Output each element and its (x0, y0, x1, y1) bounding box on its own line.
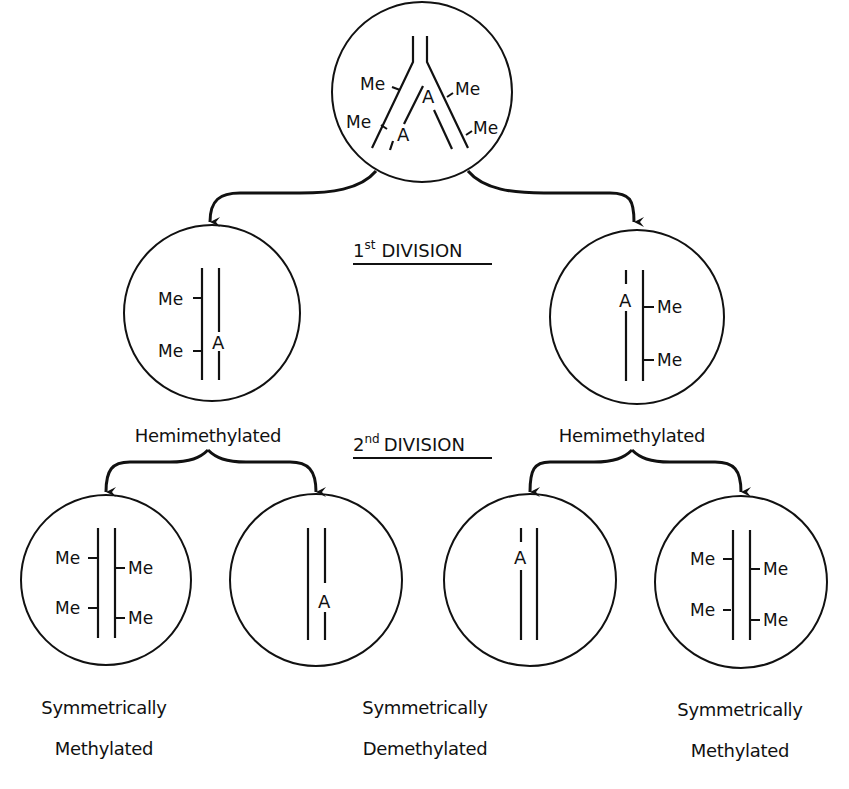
methyl-label: Me (158, 341, 183, 361)
gen2-cell-2: A (230, 494, 402, 666)
methyl-label: Me (763, 559, 788, 579)
gen1-left-cell: Me Me A (124, 225, 300, 401)
methyl-label: Me (473, 118, 498, 138)
methyl-label: Me (128, 558, 153, 578)
gen2-cell-3: A (444, 494, 616, 666)
center-label-line2: Demethylated (363, 738, 488, 759)
first-division-label: 1stDIVISION (353, 238, 492, 264)
gen2-cell-1: Me Me Me Me (21, 495, 191, 665)
first-division-arrows (210, 171, 634, 222)
gen1-right-state-label: Hemimethylated (559, 425, 705, 446)
svg-text:2ndDIVISION: 2ndDIVISION (353, 432, 465, 455)
methyl-label: Me (360, 74, 385, 94)
adenine-label: A (397, 124, 410, 145)
adenine-label: A (422, 86, 435, 107)
methyl-label: Me (455, 79, 480, 99)
methyl-label: Me (657, 297, 682, 317)
methyl-label: Me (657, 350, 682, 370)
adenine-label: A (318, 591, 331, 612)
methyl-label: Me (690, 549, 715, 569)
methyl-label: Me (346, 112, 371, 132)
adenine-label: A (619, 290, 632, 311)
center-label-line1: Symmetrically (362, 697, 488, 718)
gen1-left-state-label: Hemimethylated (135, 425, 281, 446)
methyl-label: Me (55, 548, 80, 568)
methyl-label: Me (128, 608, 153, 628)
adenine-label: A (212, 332, 225, 353)
methyl-label: Me (158, 289, 183, 309)
gen1-right-cell: A Me Me (550, 230, 724, 404)
gen2-4-label-line1: Symmetrically (677, 699, 803, 720)
methylation-inheritance-diagram: Me Me Me Me A A 1stDIVISION Me Me A Hemi… (0, 0, 849, 789)
gen2-4-label-line2: Methylated (691, 740, 789, 761)
bottom-labels: Symmetrically Methylated Symmetrically D… (41, 697, 803, 761)
svg-text:1stDIVISION: 1stDIVISION (353, 238, 463, 261)
parent-cell: Me Me Me Me A A (332, 2, 512, 182)
second-division-arrows (106, 450, 741, 492)
adenine-label: A (514, 547, 527, 568)
methyl-label: Me (763, 610, 788, 630)
gen2-cell-4: Me Me Me Me (655, 496, 827, 668)
gen2-1-label-line2: Methylated (55, 738, 153, 759)
second-division-label: 2ndDIVISION (353, 432, 492, 458)
methyl-label: Me (690, 600, 715, 620)
methyl-label: Me (55, 598, 80, 618)
gen2-1-label-line1: Symmetrically (41, 697, 167, 718)
